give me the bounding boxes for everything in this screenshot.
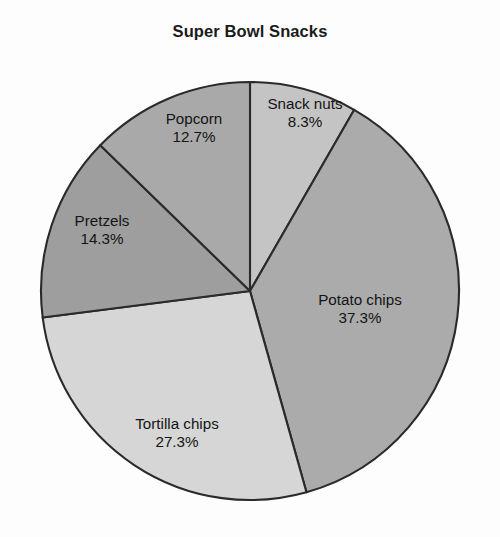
pie-slice-group <box>41 82 459 500</box>
pie-chart: Super Bowl Snacks Snack nuts8.3%Potato c… <box>0 0 500 537</box>
pie-svg <box>0 0 500 537</box>
